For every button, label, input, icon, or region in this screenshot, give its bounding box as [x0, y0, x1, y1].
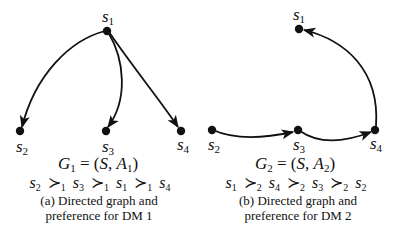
caption-b-line1: (b) Directed graph and	[239, 193, 357, 208]
caption-a-line1: (a) Directed graph and	[40, 193, 157, 208]
label-a-s2: s2	[16, 138, 28, 157]
node-a-s3	[102, 127, 110, 135]
preference-a: s2 ≻1 s3 ≻1 s1 ≻1 s4	[30, 175, 171, 193]
panel-b-edges	[213, 30, 376, 141]
caption-a-line2: preference for DM 1	[40, 208, 157, 223]
panel-a-edges	[22, 31, 178, 127]
label-b-s2: s2	[208, 136, 220, 155]
label-b-s1: s1	[293, 6, 305, 25]
node-b-s4	[371, 126, 379, 134]
caption-a: (a) Directed graph and preference for DM…	[40, 193, 157, 223]
panel-b-nodes	[208, 25, 379, 134]
node-a-s1	[103, 27, 111, 35]
graph-definition-b: G2 = (S, A2)	[255, 155, 335, 174]
edge-s2-s3	[213, 130, 293, 137]
label-a-s1: s1	[102, 8, 114, 27]
label-a-s4: s4	[177, 136, 189, 155]
node-b-s3	[294, 126, 302, 134]
edge-s4-s1	[304, 30, 376, 126]
node-b-s1	[295, 25, 303, 33]
label-b-s3: s3	[293, 136, 305, 155]
edge-s1-s4	[109, 32, 178, 127]
edge-s1-s2	[22, 31, 105, 127]
graph-definition-a: G1 = (S, A1)	[58, 155, 138, 174]
node-b-s2	[208, 126, 216, 134]
edge-s3-s4	[300, 131, 371, 141]
label-b-s4: s4	[370, 135, 382, 154]
preference-b: s1 ≻2 s4 ≻2 s3 ≻2 s2	[226, 175, 367, 193]
caption-b: (b) Directed graph and preference for DM…	[239, 193, 357, 223]
caption-b-line2: preference for DM 2	[239, 208, 357, 223]
node-a-s2	[16, 127, 24, 135]
node-a-s4	[177, 127, 185, 135]
